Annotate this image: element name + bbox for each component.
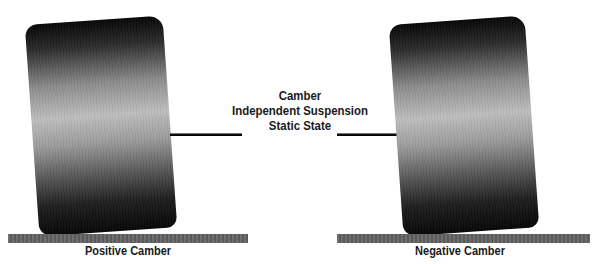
title-line-state: Static State xyxy=(203,118,397,133)
ground-left xyxy=(8,234,248,243)
tire-negative-camber xyxy=(389,16,539,237)
axle-left xyxy=(170,133,242,136)
tire-positive-camber xyxy=(25,15,177,236)
title-line-suspension: Independent Suspension xyxy=(203,103,397,118)
ground-right xyxy=(337,234,590,243)
label-negative-camber: Negative Camber xyxy=(398,244,521,258)
diagram-title: Camber Independent Suspension Static Sta… xyxy=(203,88,397,133)
label-positive-camber: Positive Camber xyxy=(66,244,189,258)
axle-right xyxy=(337,133,401,136)
title-line-camber: Camber xyxy=(203,88,397,103)
